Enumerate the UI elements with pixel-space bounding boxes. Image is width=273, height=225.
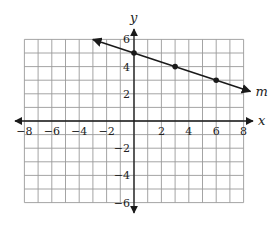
x-tick-label: −4 (71, 125, 87, 138)
data-point (172, 64, 178, 70)
x-tick-label: −8 (16, 125, 32, 138)
line-series (93, 39, 251, 91)
x-tick-label: 6 (213, 125, 220, 138)
axes (15, 29, 253, 213)
data-point (131, 50, 137, 56)
line-m-label: m (255, 84, 267, 99)
y-tick-label: −4 (114, 169, 130, 182)
x-tick-label: 8 (240, 125, 247, 138)
x-tick-label: 2 (158, 125, 165, 138)
x-tick-label: −6 (44, 125, 60, 138)
y-tick-label: −6 (114, 197, 130, 210)
y-tick-label: 4 (123, 61, 130, 74)
y-tick-label: −2 (114, 142, 130, 155)
x-tick-label: −2 (98, 125, 114, 138)
x-axis-label: x (258, 113, 266, 128)
y-tick-label: 2 (123, 88, 130, 101)
y-axis-label: y (129, 10, 138, 25)
line-m (93, 39, 251, 91)
coordinate-plane: −8−6−4−22468642−2−4−6 x y m (0, 0, 273, 225)
y-tick-label: 6 (123, 33, 130, 46)
data-point (213, 77, 219, 83)
x-tick-label: 4 (185, 125, 192, 138)
